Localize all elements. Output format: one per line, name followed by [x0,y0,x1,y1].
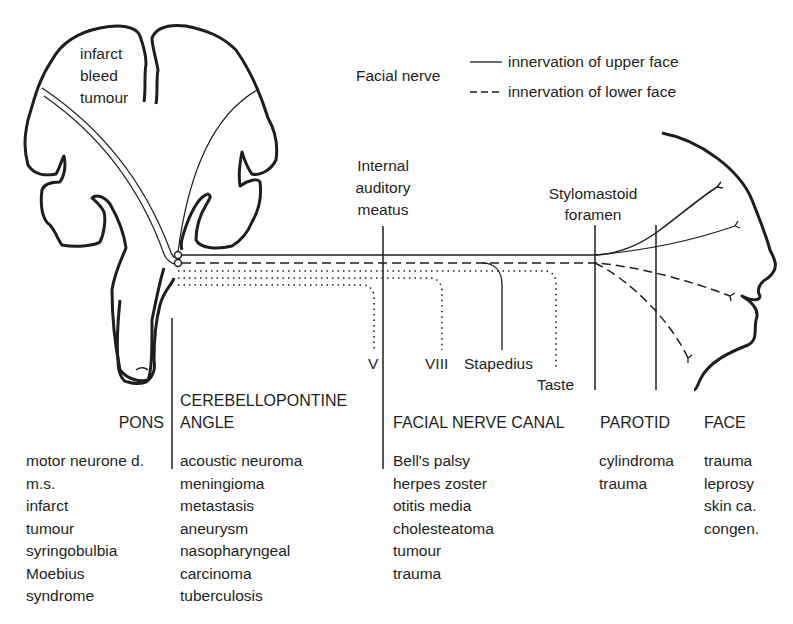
cause-item: meningioma [180,473,302,496]
stapedius-branch [482,263,502,350]
causes-list-parotid: cylindroma trauma [599,450,674,495]
causes-list-cerebellopontine-angle: acoustic neuroma meningioma metastasis a… [180,450,302,608]
cause-item: acoustic neuroma [180,450,302,473]
lesion-label: infarct [80,43,128,65]
region-heading-facial-nerve-canal: FACIAL NERVE CANAL [393,412,565,434]
causes-list-face: trauma leprosy skin ca. congen. [704,450,759,540]
dotted-branch-taste [178,271,556,368]
dotted-branch-v [178,285,374,350]
landmark-line: meatus [340,199,426,221]
branch-label-viii: VIII [425,355,448,373]
landmark-line: Internal [340,155,426,177]
causes-list-pons: motor neurone d. m.s. infarct tumour syr… [26,450,144,608]
dotted-branch-viii [178,278,442,350]
cause-item: cylindroma [599,450,674,473]
cause-item: trauma [599,473,674,496]
corticobulbar-tract-right [178,89,259,252]
face-profile-outline [662,133,775,390]
region-heading-pons: PONS [60,412,164,434]
cause-item: syringobulbia [26,540,144,563]
stylomastoid-foramen-label: Stylomastoid foramen [533,183,653,225]
nerve-ending-3 [730,293,735,301]
heading-line: ANGLE [180,412,347,434]
cause-item: tumour [393,540,494,563]
landmark-line: foramen [533,204,653,225]
heading-line: CEREBELLOPONTINE [180,390,347,412]
nerve-ending-4 [688,355,692,363]
brain-lesion-labels: infarct bleed tumour [80,43,128,109]
legend-solid-label: innervation of upper face [508,53,679,71]
lesion-label: bleed [80,65,128,87]
cause-item: nasopharyngeal [180,540,302,563]
cause-item: Moebius [26,563,144,586]
cause-item: Bell's palsy [393,450,494,473]
cause-item: m.s. [26,473,144,496]
cause-item: tumour [26,518,144,541]
corticobulbar-tract-left-inner [44,96,176,264]
brain-right-hemisphere-outline [152,26,277,251]
cause-item: metastasis [180,495,302,518]
landmark-line: auditory [340,177,426,199]
branch-label-taste: Taste [537,376,574,394]
causes-list-facial-nerve-canal: Bell's palsy herpes zoster otitis media … [393,450,494,585]
branch-label-stapedius: Stapedius [464,355,533,373]
cause-item: carcinoma [180,563,302,586]
cause-item: aneurysm [180,518,302,541]
cause-item: otitis media [393,495,494,518]
region-heading-cerebellopontine-angle: CEREBELLOPONTINE ANGLE [180,390,347,434]
brainstem-tip [136,368,148,370]
cause-item: congen. [704,518,759,541]
legend-title: Facial nerve [356,67,440,85]
facial-nucleus-upper [175,252,182,259]
facial-nucleus-lower [175,260,182,267]
cause-item: cholesteatoma [393,518,494,541]
cause-item: motor neurone d. [26,450,144,473]
cause-item: tuberculosis [180,585,302,608]
legend-dashed-label: innervation of lower face [508,83,676,101]
nerve-lower-face-dashed [182,263,730,296]
internal-auditory-meatus-label: Internal auditory meatus [340,155,426,221]
cause-item: herpes zoster [393,473,494,496]
cause-item: trauma [393,563,494,586]
cause-item: infarct [26,495,144,518]
cause-item: leprosy [704,473,759,496]
cause-item: syndrome [26,585,144,608]
region-heading-face: FACE [704,412,746,434]
cause-item: skin ca. [704,495,759,518]
lesion-label: tumour [80,87,128,109]
nerve-upper-face-branch2 [595,226,735,255]
region-heading-parotid: PAROTID [600,412,670,434]
nerve-ending-2 [735,221,740,228]
cause-item: trauma [704,450,759,473]
branch-label-v: V [368,355,378,373]
nerve-ending-1 [717,182,723,188]
landmark-line: Stylomastoid [533,183,653,204]
